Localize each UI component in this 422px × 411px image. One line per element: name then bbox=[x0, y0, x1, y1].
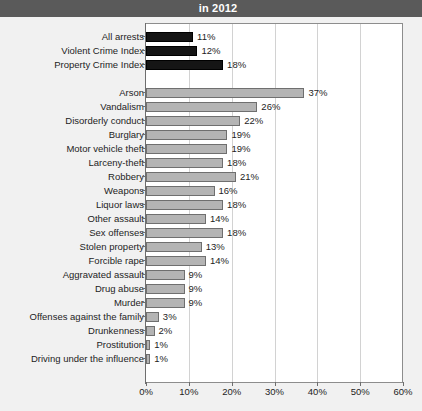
chart-row: Aggravated assault9% bbox=[0, 268, 422, 282]
bar-value-label: 11% bbox=[197, 31, 215, 42]
bar-value-label: 22% bbox=[244, 115, 263, 126]
chart-row: Drug abuse9% bbox=[0, 282, 422, 296]
chart-row: Murder9% bbox=[0, 296, 422, 310]
category-label: Robbery bbox=[0, 172, 144, 182]
x-axis-label: 10% bbox=[179, 386, 198, 397]
bar bbox=[146, 172, 236, 182]
category-label: Burglary bbox=[0, 130, 144, 140]
bar bbox=[146, 88, 304, 98]
chart-row: Robbery21% bbox=[0, 170, 422, 184]
bar-value-label: 26% bbox=[261, 101, 280, 112]
category-label: Weapons bbox=[0, 186, 144, 196]
x-axis-label: 40% bbox=[308, 386, 327, 397]
bar-value-label: 9% bbox=[189, 283, 203, 294]
bar bbox=[146, 298, 185, 308]
chart-area: All arrests11%Violent Crime Index12%Prop… bbox=[0, 17, 422, 411]
bar bbox=[146, 270, 185, 280]
chart-row: Disorderly conduct22% bbox=[0, 114, 422, 128]
category-label: Sex offenses bbox=[0, 228, 144, 238]
chart-row: Property Crime Index18% bbox=[0, 58, 422, 72]
bar-value-label: 2% bbox=[159, 325, 173, 336]
chart-row: Prostitution1% bbox=[0, 338, 422, 352]
bar bbox=[146, 326, 155, 336]
bar bbox=[146, 312, 159, 322]
category-label: Offenses against the family bbox=[0, 312, 144, 322]
bar-value-label: 1% bbox=[154, 339, 168, 350]
category-label: Other assault bbox=[0, 214, 144, 224]
x-axis-label: 0% bbox=[139, 386, 153, 397]
bar-value-label: 21% bbox=[240, 171, 259, 182]
category-label: All arrests bbox=[0, 32, 144, 42]
bar bbox=[146, 46, 197, 56]
chart-row: Offenses against the family3% bbox=[0, 310, 422, 324]
chart-row: Vandalism26% bbox=[0, 100, 422, 114]
bar-value-label: 14% bbox=[210, 213, 229, 224]
chart-row: All arrests11% bbox=[0, 30, 422, 44]
bar bbox=[146, 144, 227, 154]
category-label: Property Crime Index bbox=[0, 60, 144, 70]
x-axis-label: 20% bbox=[222, 386, 241, 397]
category-label: Driving under the influence bbox=[0, 354, 144, 364]
bar bbox=[146, 256, 206, 266]
chart-row: Driving under the influence1% bbox=[0, 352, 422, 366]
bar bbox=[146, 186, 215, 196]
bar bbox=[146, 354, 150, 364]
bar bbox=[146, 228, 223, 238]
chart-row: Arson37% bbox=[0, 86, 422, 100]
bar-value-label: 19% bbox=[231, 143, 250, 154]
category-label: Disorderly conduct bbox=[0, 116, 144, 126]
bar bbox=[146, 284, 185, 294]
x-axis-label: 60% bbox=[393, 386, 412, 397]
chart-row: Forcible rape14% bbox=[0, 254, 422, 268]
bar-value-label: 18% bbox=[227, 227, 246, 238]
category-label: Larceny-theft bbox=[0, 158, 144, 168]
bar-value-label: 18% bbox=[227, 157, 246, 168]
bar bbox=[146, 32, 193, 42]
category-label: Drug abuse bbox=[0, 284, 144, 294]
chart-row: Liquor laws18% bbox=[0, 198, 422, 212]
category-label: Liquor laws bbox=[0, 200, 144, 210]
page-title: in 2012 bbox=[185, 3, 238, 14]
chart-row: Burglary19% bbox=[0, 128, 422, 142]
bar-value-label: 37% bbox=[308, 87, 327, 98]
bar bbox=[146, 130, 227, 140]
bar bbox=[146, 214, 206, 224]
category-label: Vandalism bbox=[0, 102, 144, 112]
bar-value-label: 14% bbox=[210, 255, 229, 266]
bar-value-label: 9% bbox=[189, 269, 203, 280]
bar bbox=[146, 102, 257, 112]
category-label: Drunkenness bbox=[0, 326, 144, 336]
category-label: Aggravated assault bbox=[0, 270, 144, 280]
chart-row: Larceny-theft18% bbox=[0, 156, 422, 170]
chart-row: Other assault14% bbox=[0, 212, 422, 226]
bar-value-label: 16% bbox=[219, 185, 238, 196]
bar bbox=[146, 242, 202, 252]
category-label: Stolen property bbox=[0, 242, 144, 252]
x-axis-label: 30% bbox=[265, 386, 284, 397]
bar bbox=[146, 60, 223, 70]
bar bbox=[146, 340, 150, 350]
category-label: Arson bbox=[0, 88, 144, 98]
chart-row: Stolen property13% bbox=[0, 240, 422, 254]
bar-value-label: 3% bbox=[163, 311, 177, 322]
category-label: Prostitution bbox=[0, 340, 144, 350]
bar-value-label: 18% bbox=[227, 59, 246, 70]
bar-value-label: 9% bbox=[189, 297, 203, 308]
chart-row: Drunkenness2% bbox=[0, 324, 422, 338]
bar-value-label: 1% bbox=[154, 353, 168, 364]
category-label: Motor vehicle theft bbox=[0, 144, 144, 154]
bar-value-label: 12% bbox=[201, 45, 220, 56]
category-label: Violent Crime Index bbox=[0, 46, 144, 56]
x-axis: 0%10%20%30%40%50%60% bbox=[0, 386, 422, 400]
chart-row: Sex offenses18% bbox=[0, 226, 422, 240]
category-label: Murder bbox=[0, 298, 144, 308]
chart-row: Motor vehicle theft19% bbox=[0, 142, 422, 156]
chart-row: Weapons16% bbox=[0, 184, 422, 198]
category-label: Forcible rape bbox=[0, 256, 144, 266]
bar-value-label: 19% bbox=[231, 129, 250, 140]
bar-value-label: 13% bbox=[206, 241, 225, 252]
bar-value-label: 18% bbox=[227, 199, 246, 210]
bar bbox=[146, 116, 240, 126]
chart-title-bar: in 2012 bbox=[0, 0, 422, 17]
bar bbox=[146, 200, 223, 210]
